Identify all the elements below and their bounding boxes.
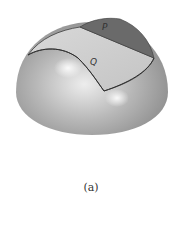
hemisphere-diagram — [0, 0, 182, 160]
figure-caption: (a) — [0, 181, 182, 194]
surface-q-label: Q — [90, 57, 97, 67]
surface-p-label: P — [102, 22, 107, 32]
